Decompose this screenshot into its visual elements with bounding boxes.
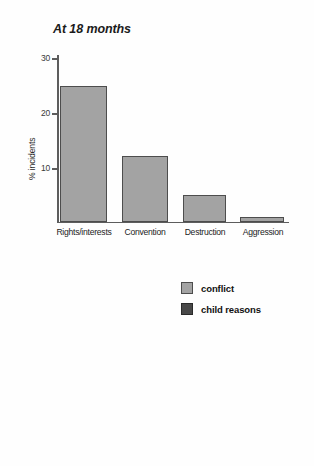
y-tick-mark-30 xyxy=(52,58,57,60)
legend-swatch-child-reasons xyxy=(181,303,193,315)
figure-two-bar-charts: At 18 months % incidents 30 20 10 Rights… xyxy=(0,0,314,466)
y-axis-title-18-months: % incidents xyxy=(27,138,37,180)
y-tick-mark-20 xyxy=(52,113,57,115)
x-category-label-aggression: Aggression xyxy=(234,227,292,237)
bar-destruction-18m xyxy=(183,195,226,223)
chart-legend: conflict child reasons xyxy=(181,279,261,321)
y-tick-mark-10 xyxy=(52,168,57,170)
y-axis-line-18-months xyxy=(57,55,59,223)
legend-label-conflict: conflict xyxy=(201,283,234,294)
legend-item-child-reasons: child reasons xyxy=(181,300,261,318)
legend-label-child-reasons: child reasons xyxy=(201,304,261,315)
y-tick-label-10: 10 xyxy=(28,163,50,173)
y-tick-label-20: 20 xyxy=(28,108,50,118)
x-category-label-destruction: Destruction xyxy=(175,227,235,237)
y-tick-label-30: 30 xyxy=(28,53,50,63)
chart-panel-18-months: At 18 months % incidents 30 20 10 Rights… xyxy=(0,0,314,245)
bar-rights-interests-18m xyxy=(60,86,107,223)
legend-swatch-conflict xyxy=(181,282,193,294)
bar-aggression-18m xyxy=(240,217,284,223)
legend-item-conflict: conflict xyxy=(181,279,261,297)
x-category-label-convention: Convention xyxy=(114,227,176,237)
chart-panel-36-months: At 36 months 40 30 xyxy=(0,330,314,466)
chart-title-18-months: At 18 months xyxy=(53,22,131,36)
bar-convention-18m xyxy=(122,156,168,222)
